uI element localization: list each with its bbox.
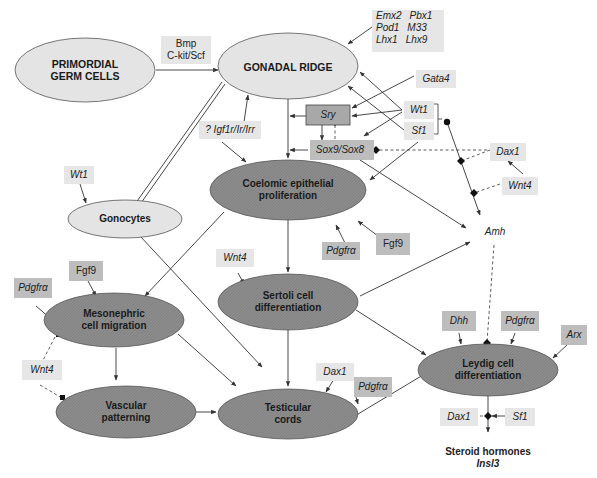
factor-line: Bmp: [161, 38, 211, 50]
sertoli-label: Sertoli cell differentiation: [238, 290, 338, 314]
factor-sf1-bottom: Sf1: [505, 408, 535, 426]
factor-sry: Sry: [306, 109, 350, 121]
factor-pdgfra-coelomic: Pdgfrα: [322, 242, 360, 260]
label-line: Coelomic epithelial: [228, 178, 348, 190]
factor-arx: Arx: [561, 325, 587, 345]
gene: Lhx1: [376, 34, 398, 46]
factor-sf1-top: Sf1: [404, 122, 434, 140]
label-line: Testicular: [238, 402, 338, 414]
factor-wnt4-top: Wnt4: [502, 177, 538, 195]
gonocytes-label: Gonocytes: [85, 213, 165, 225]
factor-wt1-top: Wt1: [404, 101, 434, 119]
output-label: Steroid hormones Insl3: [428, 446, 548, 470]
factor-wnt4-sertoli: Wnt4: [216, 249, 254, 267]
factor-pdgfra-meso: Pdgfrα: [14, 278, 52, 298]
label-line: patterning: [76, 412, 176, 424]
testicular-label: Testicular cords: [238, 402, 338, 426]
coelomic-label: Coelomic epithelial proliferation: [228, 178, 348, 202]
factor-wt1-gonocytes: Wt1: [64, 166, 94, 184]
factor-amh: Amh: [480, 226, 510, 238]
label-line: GERM CELLS: [30, 70, 140, 82]
label-line: GONADAL RIDGE: [228, 61, 348, 73]
factor-pdgfra-leydig: Pdgfrα: [501, 311, 539, 331]
label-line: Leydig cell: [438, 358, 538, 370]
factor-fgf9-meso: Fgf9: [69, 261, 103, 281]
label-line: cell migration: [64, 320, 164, 332]
factor-bmp: Bmp C-kit/Scf: [161, 36, 211, 64]
mesonephric-label: Mesonephric cell migration: [64, 308, 164, 332]
factor-gonad-genes: Emx2Pbx1 Pod1M33 Lhx1Lhx9: [372, 10, 444, 52]
factor-wnt4-meso: Wnt4: [22, 360, 62, 380]
label-line: proliferation: [228, 190, 348, 202]
label-line: differentiation: [438, 370, 538, 382]
label-line: Mesonephric: [64, 308, 164, 320]
label-line: Vascular: [76, 400, 176, 412]
factor-dax1-top: Dax1: [490, 143, 526, 161]
gene: Emx2: [376, 10, 402, 22]
gene: Pbx1: [410, 10, 433, 22]
label-line: Sertoli cell: [238, 290, 338, 302]
output-line: Insl3: [428, 458, 548, 470]
factor-dax1-bottom: Dax1: [440, 408, 478, 426]
label-line: Gonocytes: [85, 213, 165, 225]
factor-gata4: Gata4: [416, 70, 456, 88]
factor-dhh: Dhh: [442, 311, 476, 331]
label-line: cords: [238, 414, 338, 426]
primordial-germ-cells-label: PRIMORDIAL GERM CELLS: [30, 58, 140, 82]
label-line: PRIMORDIAL: [30, 58, 140, 70]
output-line: Steroid hormones: [428, 446, 548, 458]
factor-pdgfra-cords: Pdgfrα: [354, 377, 392, 397]
gonadal-ridge-label: GONADAL RIDGE: [228, 61, 348, 73]
factor-sox9: Sox9/Sox8: [310, 144, 370, 156]
factor-dax1-cords: Dax1: [316, 363, 354, 381]
leydig-label: Leydig cell differentiation: [438, 358, 538, 382]
gene: Lhx9: [406, 34, 428, 46]
factor-igf: ? Igf1r/Ir/Irr: [199, 121, 261, 139]
vascular-label: Vascular patterning: [76, 400, 176, 424]
label-line: differentiation: [238, 302, 338, 314]
gene: M33: [407, 22, 426, 34]
factor-fgf9-coelomic: Fgf9: [376, 233, 410, 255]
factor-line: C-kit/Scf: [161, 50, 211, 62]
gene: Pod1: [376, 22, 399, 34]
